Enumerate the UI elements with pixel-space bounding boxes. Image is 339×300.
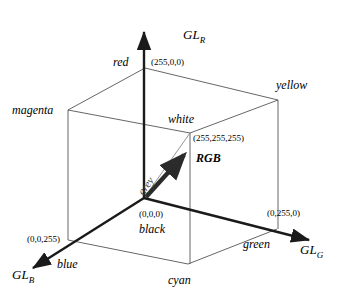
rgb-vector-arrow	[146, 155, 184, 197]
rgb-colour-cube-figure: GLR GLG GLB red (255,0,0) yellow magenta…	[0, 0, 339, 300]
vertex-label-blue: blue	[57, 258, 78, 270]
axis-r-label: GLR	[183, 28, 205, 45]
vertex-label-yellow: yellow	[276, 79, 307, 91]
vertex-label-green: green	[243, 238, 270, 250]
rgb-vector-label: RGB	[196, 152, 221, 164]
vertex-coord-green: (0,255,0)	[267, 209, 300, 218]
axis-b-line	[33, 198, 144, 268]
vertex-coord-blue: (0,0,255)	[27, 235, 60, 244]
vertex-coord-black: (0,0,0)	[139, 210, 163, 219]
cube-diagram-svg	[0, 0, 339, 300]
vertex-label-magenta: magenta	[12, 104, 53, 116]
vertex-label-white: white	[168, 113, 194, 125]
axis-b-label: GLB	[12, 268, 34, 285]
vertex-label-black: black	[139, 223, 165, 235]
vertex-coord-white: (255,255,255)	[193, 134, 244, 143]
axis-g-label: GLG	[300, 243, 323, 260]
vertex-coord-red: (255,0,0)	[151, 58, 184, 67]
vertex-label-cyan: cyan	[168, 274, 191, 286]
axis-g-line	[144, 198, 309, 240]
vertex-label-red: red	[113, 56, 129, 68]
